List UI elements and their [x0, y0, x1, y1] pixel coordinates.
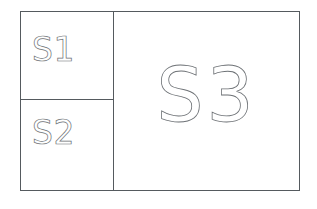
- diagram-canvas: S1 S2 S3: [0, 0, 317, 209]
- region-s2-label: S2: [32, 116, 75, 149]
- region-s1-label: S1: [32, 33, 75, 66]
- region-s2[interactable]: S2: [21, 100, 113, 190]
- left-column: S1 S2: [21, 12, 114, 190]
- region-s3-label: S3: [114, 58, 299, 132]
- region-s1[interactable]: S1: [21, 12, 113, 100]
- partition-diagram: S1 S2 S3: [20, 11, 300, 191]
- region-s3[interactable]: S3: [114, 12, 299, 190]
